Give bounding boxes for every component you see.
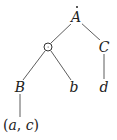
pair-comma: , [17,117,26,133]
dot-accent-icon [76,6,78,8]
circled-dot-icon [44,43,53,52]
pair-a: a [8,117,16,133]
node-A: A [70,10,82,24]
edge-A-odot [51,22,73,43]
edge-odot-b [51,51,71,80]
close-paren: ) [34,117,39,133]
node-a-c-pair: (a, c) [2,118,40,132]
pair-c: c [26,117,34,133]
node-d: d [99,80,110,94]
node-b: b [69,80,80,94]
edge-odot-B [23,51,45,80]
node-B: B [14,80,26,94]
node-C: C [98,40,111,54]
